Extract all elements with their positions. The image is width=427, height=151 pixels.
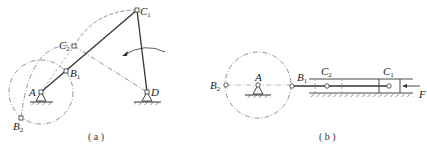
coupler-arc-a [21,46,74,118]
label-b2: B2 [13,120,24,134]
joint-a [39,90,43,94]
joint-c1 [135,8,139,12]
label-c2: C2 [59,39,70,53]
joint-b1-b [290,84,294,88]
label-c1: C1 [140,5,151,19]
label-d: D [150,86,159,98]
joint-c2-b [325,84,329,88]
caption-b: ( b ) [319,131,336,143]
label-a: A [28,86,36,98]
rotation-arrow-icon [122,51,128,56]
link-a-c1 [41,10,137,92]
label-b1: B1 [70,67,81,81]
panel-b: B2 A B1 C2 C1 F ( b ) [210,52,426,143]
joint-b2-b [224,83,228,87]
label-c1-b: C1 [383,65,394,79]
label-a-b: A [254,71,262,83]
caption-a: ( a ) [88,131,104,143]
joint-c2 [72,44,76,48]
force-arrow-icon [402,84,407,88]
joint-c1-b [387,84,391,88]
joint-d [145,90,149,94]
joint-a-b [256,83,260,87]
c-arc-a [74,10,137,46]
label-force: F [418,88,426,100]
slider-guide [309,79,413,97]
joint-b1 [64,69,68,73]
link-c1-d [137,10,147,92]
label-c2-b: C2 [321,65,332,79]
line-c2-d [74,46,147,92]
label-b2-b: B2 [210,79,221,93]
label-b1-b: B1 [297,71,308,85]
rotation-arrow-arc [124,48,165,55]
panel-a: C1 C2 B1 A D B2 ( a ) [9,5,165,143]
mechanism-diagram: C1 C2 B1 A D B2 ( a ) [0,0,427,151]
